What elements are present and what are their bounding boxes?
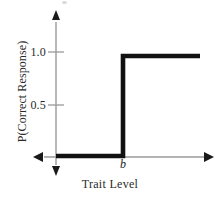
x-axis-arrowhead-left-icon (33, 152, 43, 162)
icc-step-path (56, 56, 200, 156)
y-axis-arrowhead-down-icon (52, 166, 60, 176)
y-axis-title: P(Correct Response) (15, 22, 30, 162)
threshold-label-b: b (112, 157, 134, 172)
x-axis-title: Trait Level (0, 177, 220, 192)
y-axis (52, 10, 60, 176)
x-axis-arrowhead-right-icon (204, 152, 214, 162)
item-characteristic-curve-figure: 1.0 0.5 P(Correct Response) b Trait Leve… (0, 0, 220, 198)
step-curve (56, 56, 200, 156)
y-axis-arrowhead-up-icon (52, 10, 60, 20)
